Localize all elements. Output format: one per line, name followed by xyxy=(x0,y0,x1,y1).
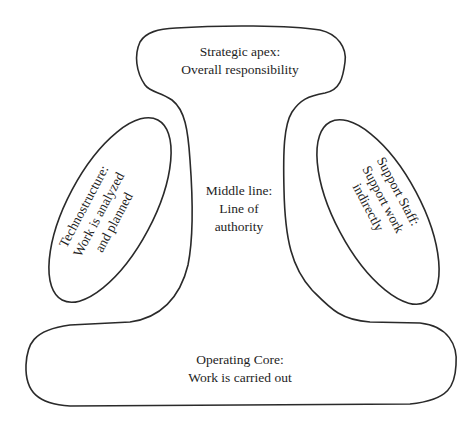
technostructure-label: Technostructure: Work is analyzed and pl… xyxy=(55,161,142,267)
operating-core-description: Work is carried out xyxy=(188,370,292,385)
operating-core-label: Operating Core: Work is carried out xyxy=(188,352,292,385)
middle-line-description-1: Line of xyxy=(219,201,259,216)
support-staff-label: Support Staff: Support work indirectly xyxy=(344,154,423,244)
middle-line-description-2: authority xyxy=(215,219,264,234)
strategic-apex-description: Overall responsibility xyxy=(181,62,299,77)
technostructure-ellipse xyxy=(24,100,196,320)
operating-core-title: Operating Core: xyxy=(196,352,283,367)
strategic-apex-label: Strategic apex: Overall responsibility xyxy=(181,44,299,77)
middle-line-title: Middle line: xyxy=(206,183,272,198)
middle-line-label: Middle line: Line of authority xyxy=(206,183,272,234)
organization-structure-diagram: Strategic apex: Overall responsibility M… xyxy=(0,0,475,424)
strategic-apex-title: Strategic apex: xyxy=(200,44,281,59)
